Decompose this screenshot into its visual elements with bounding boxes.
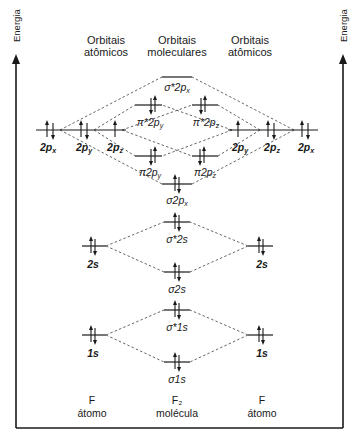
label-right-2px: 2px: [297, 141, 315, 154]
label-pi-2pz: π2pz: [194, 166, 217, 179]
label-pi-star-2pz: π*2pz: [193, 116, 220, 129]
right-1s-level: 1s: [248, 325, 273, 359]
mo-pi-2py: π2py: [135, 146, 162, 180]
label-sigma-star-1s: σ*1s: [166, 321, 188, 333]
right-energy-axis: Energia: [338, 9, 349, 428]
header-center: Orbitais moleculares: [147, 34, 207, 58]
correlation-lines: [60, 77, 294, 362]
footer-left-kind: átomo: [77, 407, 106, 419]
label-right-1s: 1s: [256, 347, 268, 359]
mo-sigma-2px: σ2px: [162, 174, 192, 207]
left-2p-levels: 2px 2py 2pz: [36, 120, 126, 155]
footer-left-element: F: [89, 394, 95, 406]
right-2p-levels: 2py 2pz 2px: [228, 120, 318, 155]
label-sigma-star-2px: σ*2px: [164, 81, 190, 94]
arrow-up-icon: [12, 54, 20, 64]
footer-right-element: F: [259, 394, 265, 406]
label-left-2pz: 2pz: [106, 141, 123, 154]
footer-center: F₂ molécula: [156, 394, 198, 419]
label-left-2s: 2s: [86, 258, 99, 270]
label-left-2py: 2py: [75, 141, 93, 155]
mo-pi-star-2pz: π*2pz: [192, 95, 220, 129]
label-left-1s: 1s: [87, 347, 99, 359]
label-sigma-2px: σ2px: [166, 194, 188, 207]
header-left: Orbitais atômicos: [84, 34, 129, 58]
label-left-2px: 2px: [39, 141, 57, 154]
header-right-line1: Orbitais: [231, 34, 269, 46]
header-right-line2: atômicos: [228, 46, 273, 58]
header-center-line2: moleculares: [147, 46, 207, 58]
mo-pi-2pz: π2pz: [192, 146, 218, 179]
electron-up-icon: [113, 120, 117, 137]
right-axis-label: Energia: [338, 9, 349, 42]
footer-right-kind: átomo: [247, 407, 276, 419]
label-right-2s: 2s: [255, 258, 268, 270]
label-sigma-2s: σ2s: [168, 283, 186, 295]
header-left-line2: atômicos: [84, 46, 129, 58]
label-right-2pz: 2pz: [263, 141, 280, 154]
footer-center-kind: molécula: [156, 407, 198, 419]
label-pi-star-2py: π*2py: [137, 116, 164, 130]
mo-diagram: Energia Energia Orbitais atômicos Orbita…: [0, 0, 354, 439]
mo-sigma-star-1s: σ*1s: [164, 300, 190, 333]
footer-center-molecule: F₂: [172, 394, 183, 406]
electron-up-icon: [236, 120, 240, 137]
footer-right: F átomo: [247, 394, 276, 419]
arrow-up-icon: [339, 54, 347, 64]
footer-left: F átomo: [77, 394, 106, 419]
left-energy-axis: Energia: [11, 9, 22, 428]
label-sigma-star-2s: σ*2s: [166, 233, 188, 245]
header-left-line1: Orbitais: [87, 34, 125, 46]
left-1s-level: 1s: [82, 325, 106, 359]
left-axis-label: Energia: [11, 9, 22, 42]
left-2s-level: 2s: [82, 236, 106, 270]
label-pi-2py: π2py: [139, 166, 162, 180]
label-right-2py: 2py: [231, 141, 249, 155]
mo-pi-star-2py: π*2py: [135, 95, 164, 130]
mo-sigma-star-2px: σ*2px: [162, 77, 192, 94]
mo-sigma-star-2s: σ*2s: [164, 212, 190, 245]
mo-sigma-2s: σ2s: [164, 262, 190, 295]
mo-sigma-1s: σ1s: [164, 352, 190, 385]
label-sigma-1s: σ1s: [168, 373, 186, 385]
header-right: Orbitais atômicos: [228, 34, 273, 58]
right-2s-level: 2s: [248, 236, 273, 270]
header-center-line1: Orbitais: [158, 34, 196, 46]
